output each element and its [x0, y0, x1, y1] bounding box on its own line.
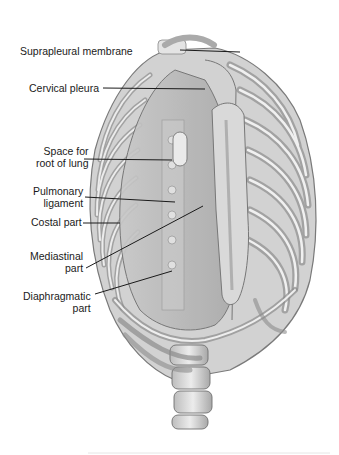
- label-cervical-pleura: Cervical pleura: [29, 82, 99, 94]
- label-line: part: [30, 262, 83, 274]
- label-suprapleural-membrane: Suprapleural membrane: [20, 45, 133, 57]
- label-space-for-root-of-lung: Space forroot of lung: [36, 145, 89, 169]
- label-mediastinal-part: Mediastinalpart: [30, 250, 83, 274]
- anatomy-figure: Suprapleural membraneCervical pleuraSpac…: [0, 0, 339, 455]
- label-line: Pulmonary: [33, 185, 83, 197]
- label-line: root of lung: [36, 157, 89, 169]
- label-line: Costal part: [31, 216, 82, 228]
- label-line: Diaphragmatic: [23, 290, 91, 302]
- label-line: part: [23, 302, 91, 314]
- label-line: Space for: [36, 145, 89, 157]
- label-line: Suprapleural membrane: [20, 45, 133, 57]
- first-rib: [165, 38, 214, 46]
- label-line: Mediastinal: [30, 250, 83, 262]
- label-pulmonary-ligament: Pulmonaryligament: [33, 185, 83, 209]
- label-diaphragmatic-part: Diaphragmaticpart: [23, 290, 91, 314]
- label-line: ligament: [33, 197, 83, 209]
- label-costal-part: Costal part: [31, 216, 82, 228]
- label-line: Cervical pleura: [29, 82, 99, 94]
